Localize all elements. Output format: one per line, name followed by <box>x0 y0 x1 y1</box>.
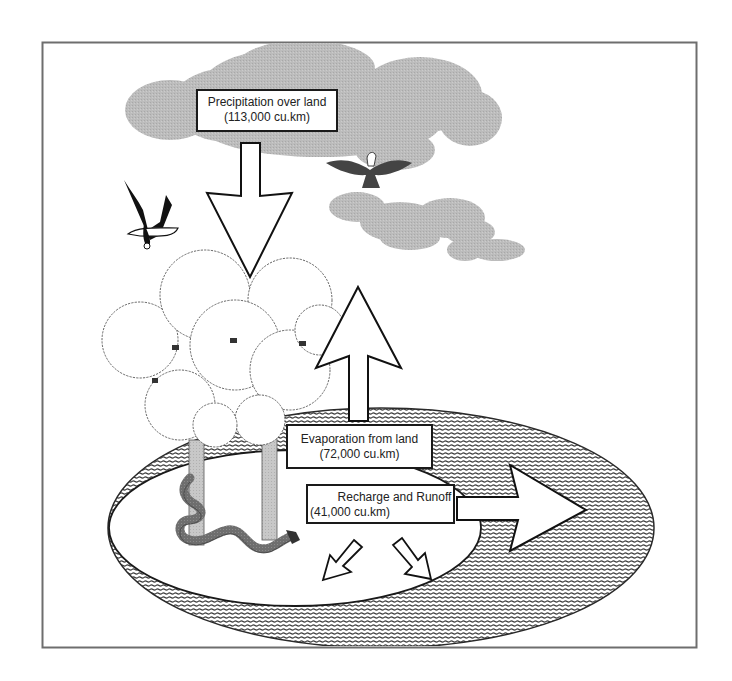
recharge-label: Recharge and Runoff (41,000 cu.km) <box>306 484 455 524</box>
recharge-value: (41,000 cu.km) <box>308 505 453 520</box>
precipitation-value: (113,000 cu.km) <box>198 110 336 125</box>
land-surface-region <box>109 450 481 606</box>
diagram-canvas <box>0 0 732 681</box>
precipitation-label: Precipitation over land (113,000 cu.km) <box>196 89 338 132</box>
evaporation-title: Evaporation from land <box>288 432 431 447</box>
water-cycle-diagram: Precipitation over land (113,000 cu.km) … <box>0 0 732 681</box>
precipitation-title: Precipitation over land <box>198 95 336 110</box>
evaporation-label: Evaporation from land (72,000 cu.km) <box>286 424 433 469</box>
evaporation-value: (72,000 cu.km) <box>288 447 431 462</box>
recharge-title: Recharge and Runoff <box>308 490 453 505</box>
